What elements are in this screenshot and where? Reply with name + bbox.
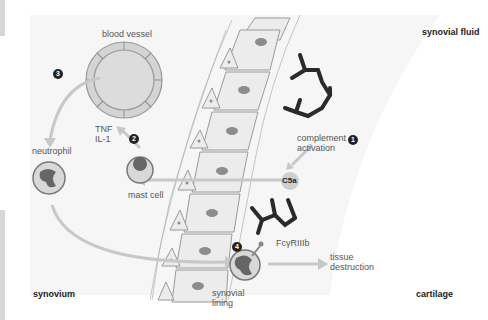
step-2-badge: 2 xyxy=(129,134,139,144)
tnf-label: TNF xyxy=(95,124,113,134)
synovial-fluid-label: synovial fluid xyxy=(422,27,480,37)
cartilage-label: cartilage xyxy=(416,289,453,299)
fc-receptor-label: FcγRIIIb xyxy=(276,238,310,248)
synovium-label: synovium xyxy=(33,289,75,299)
diagram-illustration xyxy=(0,0,488,320)
mast-cell-label: mast cell xyxy=(128,190,164,200)
tissue-destruction-line1: tissue xyxy=(330,252,354,262)
neutrophil-cell xyxy=(33,162,65,194)
synovial-lining-line2: lining xyxy=(212,298,233,308)
step-1-badge: 1 xyxy=(348,135,358,145)
il1-label: IL-1 xyxy=(95,134,111,144)
step-3-badge: 3 xyxy=(53,69,63,79)
complement-label-line2: activation xyxy=(297,143,335,153)
step-4-badge: 4 xyxy=(232,242,242,252)
complement-label-line1: complement xyxy=(297,133,346,143)
mast-cell xyxy=(127,157,153,183)
neutrophil-label: neutrophil xyxy=(32,146,72,156)
diagram-canvas: blood vessel synovial fluid TNF IL-1 neu… xyxy=(0,0,488,320)
synovial-lining-line1: synovial xyxy=(212,288,245,298)
c5a-label: C5a xyxy=(282,176,297,186)
tissue-destruction-line2: destruction xyxy=(330,262,374,272)
blood-vessel-label: blood vessel xyxy=(102,29,152,39)
